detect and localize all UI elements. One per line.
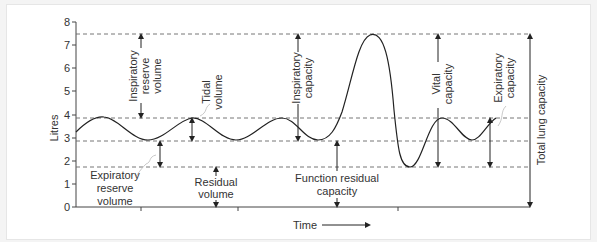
svg-text:Inspiratory: Inspiratory	[290, 52, 302, 104]
lung-volumes-diagram: 0 1 2 3 4 5 6 7 8 Litres Time Inspirator…	[0, 0, 597, 242]
x-axis	[76, 207, 530, 211]
svg-text:Expiratory: Expiratory	[492, 53, 504, 103]
rv-label: Residual volume	[195, 176, 238, 200]
svg-text:capacity: capacity	[317, 185, 358, 197]
svg-text:volume: volume	[198, 188, 233, 200]
y-tick-3: 3	[64, 132, 70, 144]
y-tick-8: 8	[64, 16, 70, 28]
y-tick-2: 2	[64, 155, 70, 167]
ic-label: Inspiratory capacity	[290, 52, 314, 104]
y-axis	[72, 22, 76, 207]
tv-leader	[200, 104, 210, 116]
svg-text:Tidal: Tidal	[200, 80, 212, 103]
svg-text:Function residual: Function residual	[295, 172, 379, 184]
x-axis-label: Time	[293, 219, 317, 231]
svg-text:volume: volume	[212, 74, 224, 109]
svg-text:capacity: capacity	[302, 57, 314, 98]
svg-text:reserve: reserve	[139, 58, 151, 95]
ec-leader	[498, 106, 506, 126]
ec-label: Expiratory capacity	[492, 53, 516, 103]
y-tick-5: 5	[64, 85, 70, 97]
y-tick-0: 0	[64, 201, 70, 213]
svg-text:volume: volume	[97, 195, 132, 207]
svg-text:capacity: capacity	[442, 63, 454, 104]
tv-label: Tidal volume	[200, 74, 224, 109]
svg-text:Inspiratory: Inspiratory	[127, 50, 139, 102]
svg-text:volume: volume	[151, 58, 163, 93]
frc-label: Function residual capacity	[295, 172, 379, 197]
y-axis-label: Litres	[48, 114, 60, 141]
svg-text:Vital: Vital	[430, 73, 442, 94]
y-tick-7: 7	[64, 39, 70, 51]
svg-text:reserve: reserve	[97, 182, 134, 194]
y-tick-labels: 0 1 2 3 4 5 6 7 8	[64, 16, 70, 213]
erv-label: Expiratory reserve volume	[90, 169, 140, 207]
svg-text:Residual: Residual	[195, 176, 238, 188]
svg-text:capacity: capacity	[504, 57, 516, 98]
y-tick-4: 4	[64, 109, 70, 121]
tlc-label: Total lung capacity	[535, 74, 547, 165]
svg-text:Expiratory: Expiratory	[90, 169, 140, 181]
y-tick-6: 6	[64, 62, 70, 74]
y-tick-1: 1	[64, 178, 70, 190]
